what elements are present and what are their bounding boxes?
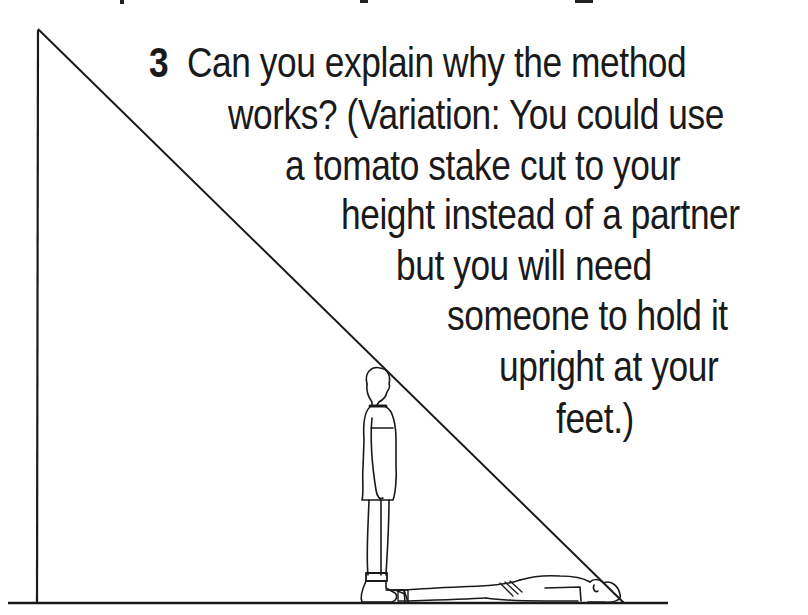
question-line-1: 3 Can you explain why the method bbox=[149, 41, 686, 84]
question-line-4: height instead of a partner bbox=[341, 193, 740, 236]
question-line-3: a tomato stake cut to your bbox=[285, 144, 680, 187]
question-line-2: works? (Variation: You could use bbox=[228, 93, 724, 136]
question-line-5: but you will need bbox=[396, 244, 652, 287]
question-text: 3 Can you explain why the method works? … bbox=[0, 0, 808, 615]
question-line-8: feet.) bbox=[556, 397, 634, 440]
question-line-7: upright at your bbox=[499, 345, 718, 388]
question-number: 3 bbox=[149, 38, 168, 86]
question-line-6: someone to hold it bbox=[447, 294, 728, 337]
